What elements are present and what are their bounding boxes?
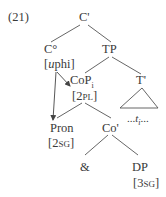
trace-dots-left: ... <box>127 112 135 124</box>
syntax-tree-diagram: (21) C' C° [uphi] TP CoPi [2pl] T' ...ti… <box>0 0 166 197</box>
node-t-bar: T' <box>136 74 146 87</box>
trace-dots-right: ... <box>141 112 149 124</box>
bracket-close: ] <box>155 176 159 190</box>
node-pron: Pron <box>50 122 74 135</box>
trace: ...ti... <box>127 113 149 124</box>
feature-number: sg <box>143 176 155 190</box>
agree-arrow-pron <box>53 72 56 120</box>
feature-person: [2 <box>72 89 82 103</box>
c-zero-feature: [uphi] <box>44 58 75 71</box>
node-ampersand: & <box>80 161 90 174</box>
feature-phi: phi] <box>54 57 74 71</box>
feature-number: pl <box>82 89 93 103</box>
feature-person: [2 <box>48 136 58 150</box>
agree-arrow-cop <box>57 72 70 86</box>
feature-number: sg <box>58 136 70 150</box>
cop-feature: [2pl] <box>72 90 97 103</box>
feature-person: [3 <box>133 176 143 190</box>
node-tp: TP <box>102 43 117 56</box>
bracket-close: ] <box>93 89 97 103</box>
example-number: (21) <box>8 11 29 24</box>
cop-label: CoP <box>70 73 92 87</box>
node-dp: DP <box>132 161 148 174</box>
bracket-close: ] <box>70 136 74 150</box>
node-cop: CoPi <box>70 74 94 87</box>
pron-feature: [2sg] <box>48 137 74 150</box>
node-c-bar: C' <box>79 11 90 24</box>
node-c-zero: C° <box>44 43 57 56</box>
dp-feature: [3sg] <box>133 177 159 190</box>
node-co-bar: Co' <box>102 122 119 135</box>
